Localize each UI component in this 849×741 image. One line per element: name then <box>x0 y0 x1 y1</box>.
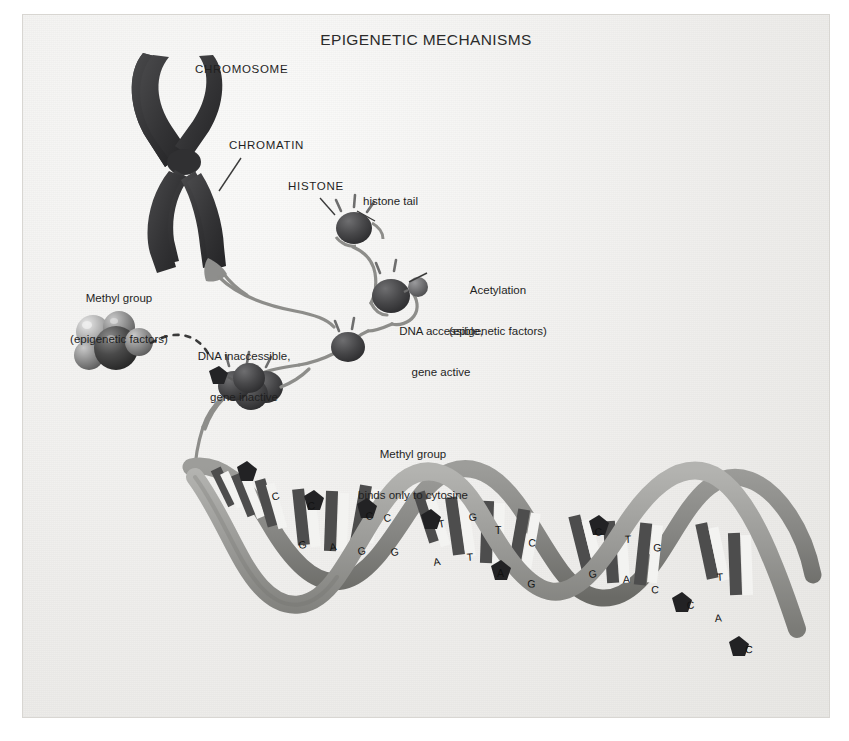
svg-text:G: G <box>390 545 399 558</box>
svg-text:A: A <box>497 567 504 579</box>
label-methyl-group-line1: Methyl group <box>49 292 189 306</box>
chromosome-graphic <box>132 53 227 282</box>
figure-title: EPIGENETIC MECHANISMS <box>23 31 829 49</box>
label-chromatin: CHROMATIN <box>229 139 304 153</box>
label-methyl-group: Methyl group (epigenetic factors) <box>49 265 189 374</box>
label-dna-accessible-line2: gene active <box>371 366 511 380</box>
svg-text:A: A <box>432 555 441 568</box>
svg-text:A: A <box>714 612 722 624</box>
label-dna-inaccessible-line1: DNA inaccessible, <box>171 350 317 364</box>
svg-text:C: C <box>686 598 695 611</box>
label-methyl-cytosine-line1: Methyl group <box>323 448 503 462</box>
epigenetic-mechanisms-figure: EPIGENETIC MECHANISMS <box>22 14 830 718</box>
svg-text:G: G <box>653 541 662 554</box>
label-dna-inaccessible-line2: gene inactive <box>171 391 317 405</box>
svg-text:G: G <box>298 538 308 551</box>
label-chromosome: CHROMOSOME <box>195 63 288 77</box>
svg-text:C: C <box>745 643 753 655</box>
label-histone: HISTONE <box>288 180 344 194</box>
svg-text:G: G <box>588 567 597 580</box>
svg-text:T: T <box>625 533 632 545</box>
label-dna-accessible-line1: DNA accessible, <box>371 325 511 339</box>
label-histone-tail: histone tail <box>363 195 418 209</box>
svg-text:G: G <box>527 577 536 590</box>
svg-text:C: C <box>651 583 660 596</box>
label-methyl-cytosine: Methyl group binds only to cytosine <box>323 421 503 530</box>
histone-nucleosome-3 <box>331 318 365 362</box>
label-dna-inaccessible: DNA inaccessible, gene inactive <box>171 323 317 432</box>
label-methyl-group-line2: (epigenetic factors) <box>49 333 189 347</box>
label-dna-accessible: DNA accessible, gene active <box>371 298 511 407</box>
svg-text:A: A <box>623 573 630 585</box>
label-acetylation-line1: Acetylation <box>423 284 573 298</box>
svg-text:G: G <box>357 544 366 557</box>
label-methyl-cytosine-line2: binds only to cytosine <box>323 489 503 503</box>
